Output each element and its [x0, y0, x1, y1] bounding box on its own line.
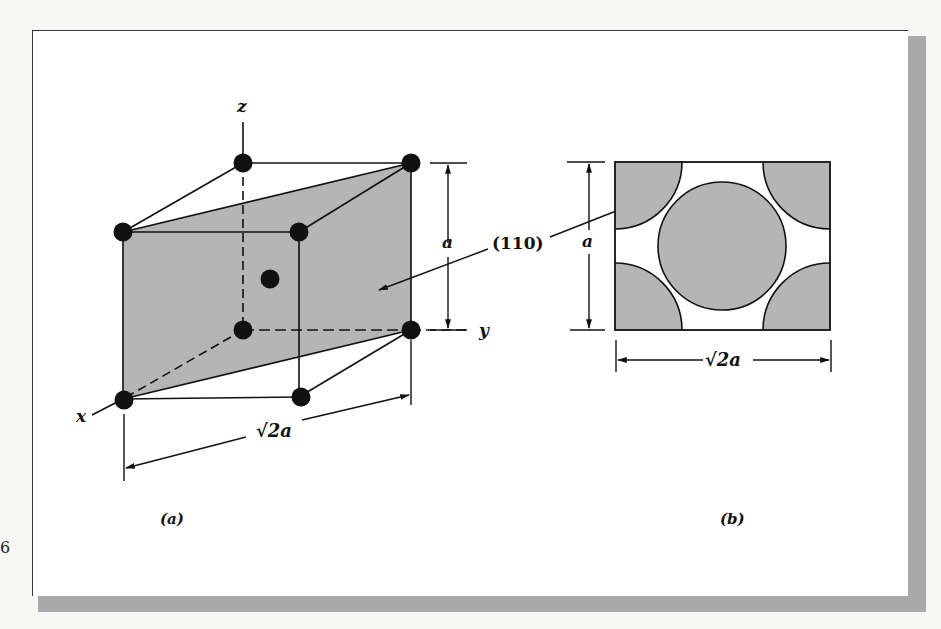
atom — [292, 388, 311, 407]
panel-b-width-value: 2a — [716, 349, 741, 370]
atom — [234, 154, 253, 173]
panel-a-caption: (a) — [160, 510, 184, 528]
diag-dim-value: 2a — [267, 420, 292, 441]
atom-body-center — [261, 270, 280, 289]
atom — [290, 223, 309, 242]
panel-a-cube: z y x a √2a (110) (a) — [75, 96, 639, 528]
center-atom — [658, 182, 786, 310]
height-dim-label: a — [442, 232, 453, 252]
atom — [234, 321, 253, 340]
y-axis-label: y — [478, 320, 490, 340]
sqrt-symbol: √ — [705, 349, 717, 370]
panel-b-packing: a √2a (b) — [548, 95, 897, 528]
diag-dim-label: √2a — [256, 420, 292, 441]
atom — [402, 321, 421, 340]
atom — [402, 154, 421, 173]
panel-b-width-label: √2a — [705, 349, 741, 370]
z-axis-label: z — [236, 96, 247, 116]
atom — [114, 223, 133, 242]
plane-label: (110) — [492, 233, 544, 253]
panel-b-caption: (b) — [720, 510, 745, 528]
figure-canvas: z y x a √2a (110) (a) — [0, 0, 941, 629]
atom — [115, 391, 134, 410]
sqrt-symbol: √ — [256, 420, 268, 441]
panel-b-height-label: a — [582, 231, 593, 251]
x-axis-label: x — [75, 406, 87, 426]
